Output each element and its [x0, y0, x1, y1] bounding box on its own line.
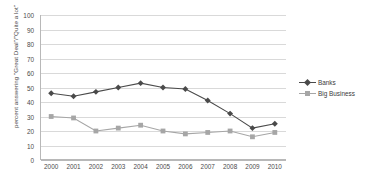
legend-item-big-business[interactable]: Big Business [299, 88, 355, 99]
data-point [272, 130, 277, 135]
x-tick-label: 2010 [260, 163, 290, 170]
data-point [228, 129, 233, 134]
data-point [71, 116, 76, 121]
data-point [160, 85, 166, 91]
data-point [116, 126, 121, 131]
data-point [138, 80, 144, 86]
data-point [94, 129, 99, 134]
legend-marker-banks [299, 78, 316, 87]
data-point [205, 98, 211, 104]
data-point [48, 90, 54, 96]
data-point [205, 130, 210, 135]
legend-label-banks: Banks [318, 78, 336, 87]
legend-marker-big-business [299, 89, 316, 98]
data-point [250, 134, 255, 139]
data-point [272, 121, 278, 127]
legend-label-big-business: Big Business [318, 89, 355, 98]
data-point [183, 132, 188, 137]
data-point [49, 114, 54, 119]
series-line [51, 117, 275, 137]
series-big-business [49, 114, 277, 139]
data-point [138, 123, 143, 128]
line-chart: percent answering "Great Deal"/"Quite a … [0, 0, 381, 186]
data-point [115, 85, 121, 91]
data-point [249, 125, 255, 131]
data-point [182, 86, 188, 92]
data-point [93, 89, 99, 95]
data-point [71, 93, 77, 99]
data-point [161, 129, 166, 134]
chart-legend: Banks Big Business [299, 77, 355, 99]
data-point [227, 111, 233, 117]
legend-item-banks[interactable]: Banks [299, 77, 355, 88]
